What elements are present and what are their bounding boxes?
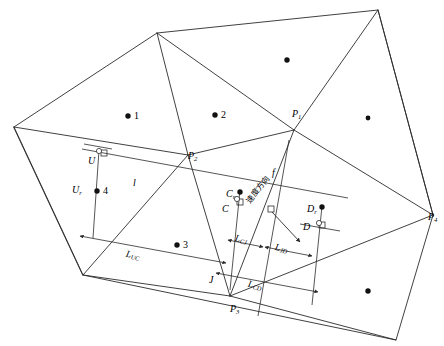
vertex-label-P3-subscript: 3 <box>236 308 239 315</box>
dot-Ur <box>94 188 99 193</box>
point-label-J: J <box>209 274 213 285</box>
point-label-U-base: U <box>88 155 95 166</box>
line-l <box>82 149 348 198</box>
edge-P2-P1 <box>188 130 294 155</box>
node-D <box>316 220 321 225</box>
dimension-label-L_CJ-subscript: CJ <box>239 237 247 245</box>
point-label-Cr-base: C <box>226 188 233 199</box>
point-label-D: D <box>303 221 310 232</box>
vertex-label-P4-subscript: 4 <box>434 216 437 223</box>
dot-cell-3 <box>174 242 179 247</box>
cell-number-4: 4 <box>103 185 108 196</box>
velocity-arrow <box>272 212 300 242</box>
dot-cell-1 <box>125 113 130 118</box>
point-label-Dr-subscript: r <box>314 208 317 215</box>
dot-right <box>366 116 371 121</box>
dimension-label-L_JD-subscript: JD <box>279 246 288 254</box>
dot-top-right <box>284 57 289 62</box>
point-label-J-base: J <box>209 274 213 285</box>
construction-line-l <box>82 149 348 198</box>
point-label-C: C <box>222 203 229 214</box>
edge-left-lowerleft <box>14 127 83 275</box>
vertex-label-P4: P4 <box>428 211 437 223</box>
edge-lowerleft-P3 <box>83 275 230 296</box>
point-label-Cr: Cr <box>226 188 235 200</box>
dot-cell-2 <box>212 112 217 117</box>
vertex-label-P3: P3 <box>230 303 239 315</box>
point-label-D-base: D <box>303 221 310 232</box>
cell-number-1: 1 <box>134 110 139 121</box>
node-U <box>96 148 101 153</box>
dot-Cr <box>237 189 242 194</box>
vertex-label-P2-subscript: 2 <box>194 155 197 162</box>
vertex-label-P1-subscript: 1 <box>298 113 301 120</box>
ra-J-icon <box>268 206 274 212</box>
point-label-f: f <box>272 167 275 178</box>
cell-number-3: 3 <box>183 239 188 250</box>
point-label-U: U <box>88 155 95 166</box>
point-label-Dr: Dr <box>307 203 317 215</box>
dim-L-CD <box>216 273 318 292</box>
vertex-label-P1: P1 <box>292 108 301 120</box>
dimension-label-L_CJ: LCJ <box>234 233 248 246</box>
point-label-Ur-subscript: r <box>79 189 82 196</box>
cell-number-2: 2 <box>221 109 226 120</box>
dim-L-JD <box>265 247 312 256</box>
dimension-label-L_CD-subscript: CD <box>252 283 262 292</box>
edge-topright-P4 <box>378 10 433 215</box>
point-label-l-base: l <box>133 177 136 188</box>
diagram-canvas <box>0 0 444 346</box>
vertex-label-P2: P2 <box>188 150 197 162</box>
point-label-f-base: f <box>272 167 275 178</box>
dot-Dr <box>319 204 324 209</box>
geometry-diagram: P1P2P3P4UUrCCrDDrJflLUCLCJLJDLCD1234速度方向 <box>0 0 444 346</box>
edge-P3-bottomright <box>230 296 396 340</box>
point-label-l: l <box>133 177 136 188</box>
dim-L-UC <box>80 236 226 263</box>
point-label-Cr-subscript: r <box>233 193 236 200</box>
point-label-C-base: C <box>222 203 229 214</box>
edge-P1-P3 <box>230 130 294 296</box>
point-label-Ur: Ur <box>72 184 82 196</box>
dot-bottom-right <box>365 288 370 293</box>
edge-topright-P1 <box>294 10 378 130</box>
dimension-label-L_UC-subscript: UC <box>130 253 140 262</box>
